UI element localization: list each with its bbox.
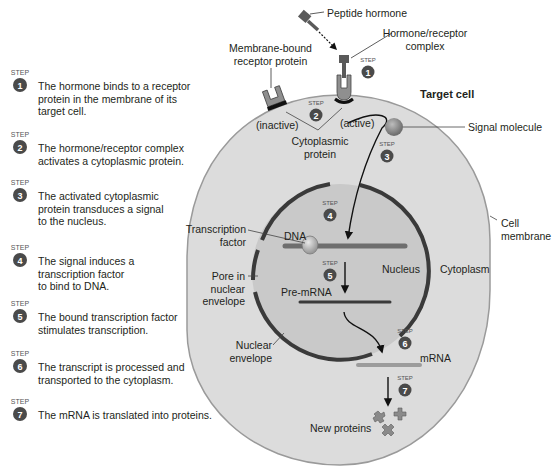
svg-text:STEP: STEP	[11, 69, 30, 76]
label-dna: DNA	[284, 230, 306, 243]
label-hormone-receptor-complex: Hormone/receptor complex	[380, 27, 470, 52]
svg-text:7: 7	[17, 410, 22, 420]
svg-text:4: 4	[17, 256, 22, 266]
step-1-badge-icon: STEP 1	[10, 68, 38, 96]
step-2-text: The hormone/receptor complex activates a…	[38, 142, 213, 167]
step-5-text: The bound transcription factor stimulate…	[38, 311, 213, 336]
step-2-badge-icon: STEP 2	[10, 130, 38, 158]
cell-membrane-leader	[490, 216, 497, 220]
svg-text:STEP: STEP	[11, 350, 30, 357]
label-membrane-bound-receptor: Membrane-bound receptor protein	[228, 42, 313, 67]
svg-text:STEP: STEP	[322, 260, 338, 266]
label-active: (active)	[340, 117, 374, 130]
svg-text:2: 2	[313, 111, 318, 121]
hormone-arrow	[319, 32, 336, 49]
svg-text:STEP: STEP	[322, 200, 338, 206]
label-target-cell: Target cell	[420, 88, 474, 101]
svg-text:1: 1	[365, 68, 370, 78]
label-cell-membrane: Cell membrane	[501, 217, 551, 242]
step-3-text: The activated cytoplasmic protein transd…	[38, 190, 213, 228]
svg-text:2: 2	[17, 143, 22, 153]
step-1-text: The hormone binds to a receptor protein …	[38, 80, 213, 118]
peptide-hormone-icon	[298, 10, 324, 30]
svg-text:STEP: STEP	[397, 375, 413, 381]
label-cytoplasmic-protein: Cytoplasmic protein	[285, 135, 355, 160]
label-cytoplasm: Cytoplasm	[440, 263, 490, 276]
svg-text:STEP: STEP	[11, 179, 30, 186]
step-5-badge-icon: STEP 5	[10, 299, 38, 327]
svg-text:7: 7	[402, 386, 407, 396]
svg-text:STEP: STEP	[360, 57, 376, 63]
label-mrna: mRNA	[420, 352, 451, 365]
label-new-proteins: New proteins	[310, 422, 371, 435]
label-peptide-hormone: Peptide hormone	[327, 7, 407, 20]
svg-text:6: 6	[402, 339, 407, 349]
step-7-text: The mRNA is translated into proteins.	[38, 409, 228, 422]
svg-text:3: 3	[17, 191, 22, 201]
svg-text:5: 5	[327, 271, 332, 281]
svg-text:STEP: STEP	[397, 328, 413, 334]
svg-text:STEP: STEP	[308, 100, 324, 106]
svg-text:1: 1	[17, 81, 22, 91]
label-inactive: (inactive)	[256, 119, 299, 132]
svg-text:STEP: STEP	[11, 131, 30, 138]
steps-list: STEP 1 The hormone binds to a receptor p…	[0, 0, 200, 470]
svg-text:STEP: STEP	[379, 141, 395, 147]
svg-text:4: 4	[327, 211, 332, 221]
step-7-badge-icon: STEP 7	[10, 397, 38, 425]
step-6-badge-icon: STEP 6	[10, 349, 38, 377]
step-4-badge-icon: STEP 4	[10, 243, 38, 271]
svg-text:3: 3	[384, 152, 389, 162]
step-4-text: The signal induces a transcription facto…	[38, 255, 213, 293]
svg-text:STEP: STEP	[11, 244, 30, 251]
step-3-badge-icon: STEP 3	[10, 178, 38, 206]
svg-text:STEP: STEP	[11, 300, 30, 307]
svg-text:6: 6	[17, 362, 22, 372]
signal-molecule	[385, 118, 403, 136]
label-nuclear-envelope: Nuclear envelope	[222, 339, 272, 364]
diagram-step-1-badge: 1 STEP	[360, 57, 376, 79]
label-nucleus: Nucleus	[382, 263, 420, 276]
label-signal-molecule: Signal molecule	[468, 121, 542, 134]
step-6-text: The transcript is processed and transpor…	[38, 361, 213, 386]
svg-text:5: 5	[17, 312, 22, 322]
svg-text:STEP: STEP	[11, 398, 30, 405]
label-pre-mrna: Pre-mRNA	[281, 286, 332, 299]
